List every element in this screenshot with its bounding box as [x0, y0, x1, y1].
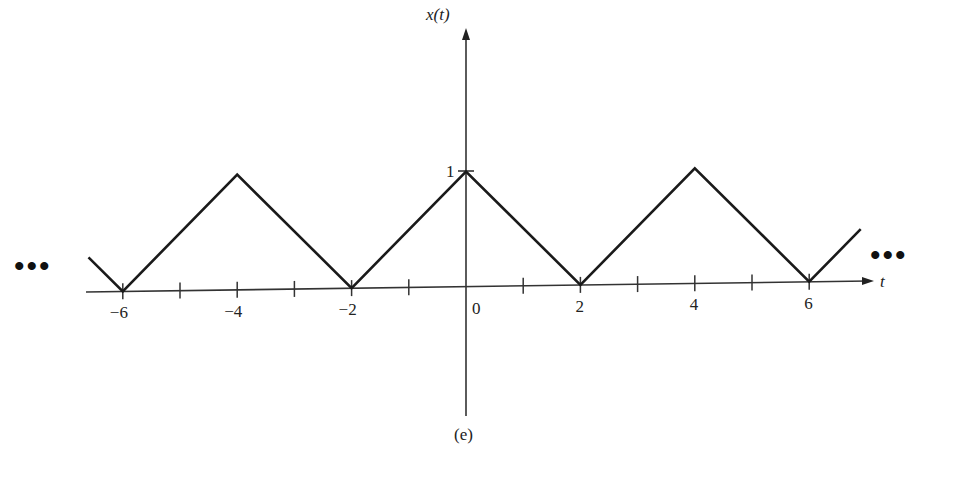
x-tick-label: 4	[690, 295, 699, 314]
x-tick-label: 0	[472, 299, 481, 318]
continuation-dots-left-icon: •••	[14, 249, 52, 282]
tick-labels: −6−4−20246	[110, 294, 813, 323]
x-tick-label: −6	[110, 303, 128, 322]
x-tick-label: 2	[575, 297, 584, 316]
triangular-wave-plot: −6−4−20246 x(t) t 1 (e) ••• •••	[0, 0, 956, 486]
t-axis	[86, 281, 868, 292]
x-axis-label: t	[880, 272, 886, 291]
axes	[86, 28, 874, 416]
x-tick-label: −2	[339, 300, 357, 319]
x-tick-label: −4	[224, 302, 243, 321]
series-x-of-t	[89, 168, 861, 291]
y-axis-label: x(t)	[425, 5, 450, 24]
y-axis-arrow-icon	[462, 28, 470, 40]
figure-caption: (e)	[454, 425, 473, 444]
triangle-wave-line	[89, 168, 861, 291]
x-tick-label: 6	[804, 294, 813, 313]
t-axis-arrow-icon	[862, 277, 874, 285]
y-tick-label-1: 1	[446, 162, 455, 181]
continuation-dots-right-icon: •••	[870, 238, 908, 271]
